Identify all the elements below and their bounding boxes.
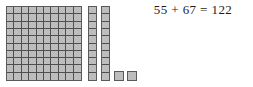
flat-unit-cell [22, 44, 29, 51]
flat-unit-cell [22, 7, 29, 14]
flat-unit-cell [14, 65, 21, 72]
flat-unit-cell [51, 44, 58, 51]
flat-unit-cell [51, 51, 58, 58]
flat-unit-cell [74, 29, 81, 36]
flat-unit-cell [7, 58, 14, 65]
flat-unit-cell [37, 51, 44, 58]
flat-unit-cell [59, 29, 66, 36]
flat-unit-cell [22, 29, 29, 36]
flat-unit-cell [59, 36, 66, 43]
flat-unit-cell [14, 51, 21, 58]
rod-unit-cell [89, 73, 96, 80]
flat-unit-cell [29, 58, 36, 65]
flat-unit-cell [7, 51, 14, 58]
flat-unit-cell [59, 65, 66, 72]
flat-unit-cell [29, 36, 36, 43]
ones-unit-block-2 [127, 71, 137, 81]
flat-unit-cell [66, 58, 73, 65]
flat-unit-cell [74, 36, 81, 43]
ones-unit-block-1 [114, 71, 124, 81]
flat-unit-cell [59, 51, 66, 58]
rod-unit-cell [102, 14, 109, 21]
flat-unit-cell [7, 65, 14, 72]
flat-unit-cell [14, 36, 21, 43]
flat-unit-cell [44, 44, 51, 51]
tens-rod-block-2 [101, 6, 110, 81]
rod-unit-cell [102, 65, 109, 72]
flat-unit-cell [44, 22, 51, 29]
flat-unit-cell [59, 14, 66, 21]
flat-unit-cell [51, 65, 58, 72]
flat-unit-cell [66, 14, 73, 21]
flat-unit-cell [66, 73, 73, 80]
flat-unit-cell [14, 58, 21, 65]
flat-unit-cell [51, 36, 58, 43]
flat-unit-cell [14, 22, 21, 29]
flat-unit-cell [74, 44, 81, 51]
flat-unit-cell [74, 73, 81, 80]
flat-unit-cell [7, 14, 14, 21]
flat-unit-cell [22, 36, 29, 43]
flat-unit-cell [22, 14, 29, 21]
rod-unit-cell [89, 51, 96, 58]
flat-unit-cell [29, 22, 36, 29]
flat-unit-cell [74, 22, 81, 29]
rod-unit-cell [102, 44, 109, 51]
flat-unit-cell [66, 29, 73, 36]
flat-unit-cell [37, 65, 44, 72]
rod-unit-cell [89, 14, 96, 21]
flat-unit-cell [7, 73, 14, 80]
flat-unit-cell [29, 29, 36, 36]
rod-unit-cell [102, 73, 109, 80]
rod-unit-cell [89, 36, 96, 43]
flat-unit-cell [51, 73, 58, 80]
flat-unit-cell [22, 65, 29, 72]
flat-unit-cell [59, 7, 66, 14]
flat-unit-cell [66, 36, 73, 43]
rod-unit-cell [102, 22, 109, 29]
flat-unit-cell [44, 14, 51, 21]
flat-unit-cell [66, 44, 73, 51]
rod-unit-cell [102, 51, 109, 58]
flat-unit-cell [51, 22, 58, 29]
rod-unit-cell [102, 7, 109, 14]
flat-unit-cell [29, 51, 36, 58]
tens-rod-block-1 [88, 6, 97, 81]
flat-unit-cell [37, 29, 44, 36]
flat-unit-cell [51, 14, 58, 21]
flat-unit-cell [7, 44, 14, 51]
flat-unit-cell [59, 73, 66, 80]
flat-unit-cell [59, 22, 66, 29]
flat-unit-cell [7, 22, 14, 29]
flat-unit-cell [44, 65, 51, 72]
flat-unit-cell [7, 29, 14, 36]
flat-unit-cell [37, 44, 44, 51]
flat-unit-cell [37, 36, 44, 43]
flat-unit-cell [44, 73, 51, 80]
flat-unit-cell [29, 14, 36, 21]
flat-unit-cell [51, 29, 58, 36]
flat-unit-cell [22, 51, 29, 58]
flat-unit-cell [74, 65, 81, 72]
hundreds-flat-block [6, 6, 82, 81]
flat-unit-cell [66, 51, 73, 58]
rod-unit-cell [89, 22, 96, 29]
flat-unit-cell [44, 36, 51, 43]
flat-unit-cell [74, 58, 81, 65]
flat-unit-cell [29, 73, 36, 80]
flat-unit-cell [37, 73, 44, 80]
flat-unit-cell [74, 51, 81, 58]
flat-unit-cell [51, 58, 58, 65]
flat-unit-cell [44, 51, 51, 58]
flat-unit-cell [51, 7, 58, 14]
flat-unit-cell [7, 7, 14, 14]
flat-unit-cell [44, 7, 51, 14]
flat-unit-cell [22, 73, 29, 80]
rod-unit-cell [89, 7, 96, 14]
flat-unit-cell [37, 7, 44, 14]
flat-unit-cell [29, 7, 36, 14]
rod-unit-cell [89, 65, 96, 72]
flat-unit-cell [66, 65, 73, 72]
flat-unit-cell [22, 22, 29, 29]
flat-unit-cell [22, 58, 29, 65]
